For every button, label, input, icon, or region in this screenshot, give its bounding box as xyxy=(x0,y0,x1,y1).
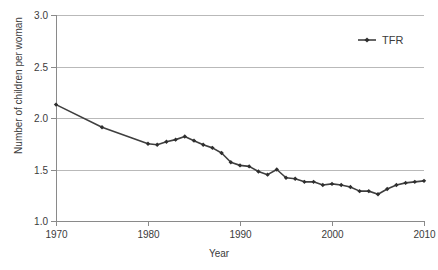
data-point-marker xyxy=(164,139,168,143)
data-point-marker xyxy=(155,143,159,147)
y-tick-label: 1.0 xyxy=(34,216,48,227)
series-markers-group xyxy=(54,102,426,196)
x-tick-label: 1970 xyxy=(45,229,68,240)
y-tick-label: 1.5 xyxy=(34,165,48,176)
data-point-marker xyxy=(403,181,407,185)
data-point-marker xyxy=(339,183,343,187)
y-tick-label: 2.0 xyxy=(34,113,48,124)
data-point-marker xyxy=(367,189,371,193)
data-point-marker xyxy=(302,180,306,184)
data-point-marker xyxy=(413,180,417,184)
chart-legend: TFR xyxy=(358,34,403,46)
x-tick-label: 2010 xyxy=(413,229,436,240)
data-point-marker xyxy=(146,142,150,146)
data-point-marker xyxy=(173,137,177,141)
x-tick-label: 1990 xyxy=(229,229,252,240)
x-axis-title: Year xyxy=(0,248,438,259)
data-point-marker xyxy=(330,182,334,186)
y-tick-label: 2.5 xyxy=(34,62,48,73)
data-point-marker xyxy=(238,163,242,167)
plot-area: 1.01.52.02.53.0 19701980199020002010 TFR xyxy=(0,0,438,270)
x-axis-ticks-group: 19701980199020002010 xyxy=(45,221,436,240)
y-axis-ticks-group: 1.01.52.02.53.0 xyxy=(34,10,56,227)
data-point-marker xyxy=(321,183,325,187)
tfr-line-chart: Number of children per woman 1.01.52.02.… xyxy=(0,0,438,270)
x-tick-label: 2000 xyxy=(321,229,344,240)
data-point-marker xyxy=(311,180,315,184)
y-tick-label: 3.0 xyxy=(34,10,48,21)
data-point-marker xyxy=(422,179,426,183)
legend-label-tfr: TFR xyxy=(382,34,403,46)
x-tick-label: 1980 xyxy=(137,229,160,240)
data-point-marker xyxy=(293,177,297,181)
